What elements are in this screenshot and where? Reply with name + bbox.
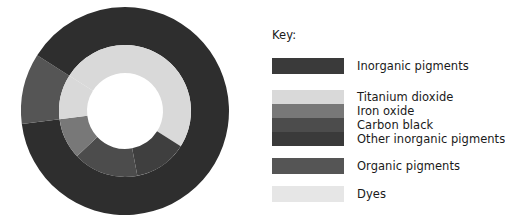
legend-swatch-iron-oxide	[272, 104, 344, 118]
legend-label-organic-pigments: Organic pigments	[357, 158, 460, 174]
legend-label-iron-oxide: Iron oxide	[357, 104, 505, 118]
legend-title: Key:	[272, 28, 296, 42]
legend-labels-dyes: Dyes	[357, 186, 386, 202]
legend-label-carbon-black: Carbon black	[357, 118, 505, 132]
legend-swatch-other-inorganic	[272, 132, 344, 146]
legend-row-dyes[interactable]: Dyes	[272, 186, 386, 202]
donut-chart-svg	[12, 4, 238, 218]
legend-swatch-stack-inorganic-breakdown	[272, 90, 344, 146]
donut-ring-outer	[21, 7, 229, 215]
legend-labels-inorganic: Inorganic pigments	[357, 58, 469, 74]
legend-row-organic[interactable]: Organic pigments	[272, 158, 460, 174]
legend-swatch-carbon-black	[272, 118, 344, 132]
legend-labels-inorganic-breakdown: Titanium dioxide Iron oxide Carbon black…	[357, 90, 505, 146]
legend-label-titanium-dioxide: Titanium dioxide	[357, 90, 505, 104]
legend-labels-organic: Organic pigments	[357, 158, 460, 174]
legend-label-dyes: Dyes	[357, 186, 386, 202]
legend-swatch-inorganic	[272, 58, 344, 74]
donut-chart	[12, 4, 238, 218]
legend-label-inorganic-pigments: Inorganic pigments	[357, 58, 469, 74]
donut-ring-inner	[59, 45, 191, 177]
legend-label-other-inorganic-pigments: Other inorganic pigments	[357, 132, 505, 146]
legend: Key: Inorganic pigments Titanium dioxide…	[272, 28, 482, 218]
legend-swatch-organic	[272, 158, 344, 174]
legend-swatch-dyes	[272, 186, 344, 202]
legend-row-inorganic[interactable]: Inorganic pigments	[272, 58, 469, 74]
legend-swatch-titanium-dioxide	[272, 90, 344, 104]
legend-row-inorganic-breakdown[interactable]: Titanium dioxide Iron oxide Carbon black…	[272, 90, 505, 146]
